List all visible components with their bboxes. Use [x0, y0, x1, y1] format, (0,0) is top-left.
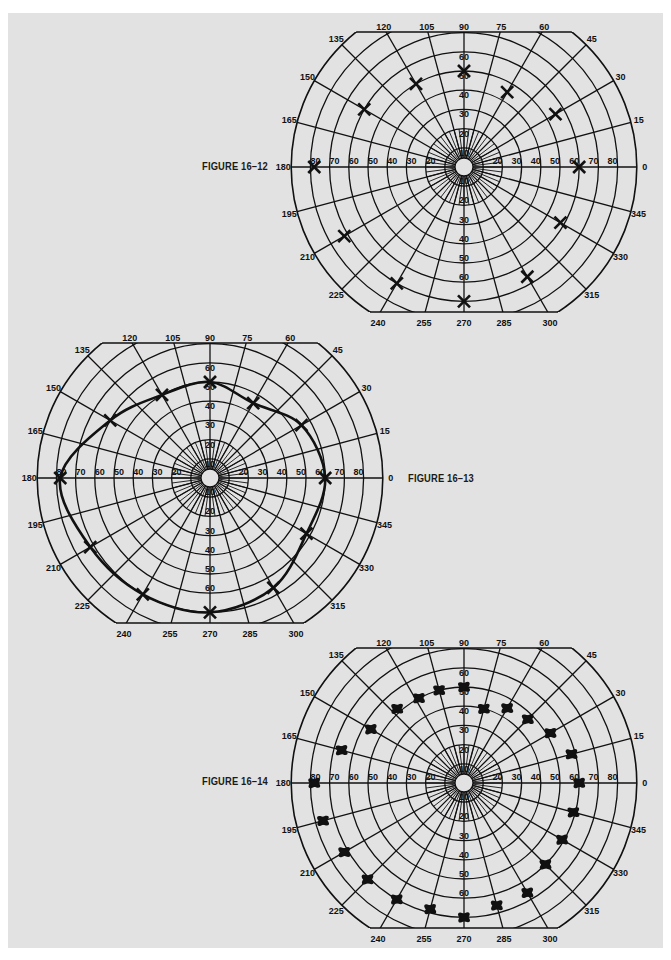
- angle-tick-label: 120: [376, 22, 391, 32]
- angle-tick-label: 105: [165, 333, 180, 343]
- angle-tick-label: 90: [205, 333, 215, 343]
- angle-tick-label: 240: [370, 934, 385, 944]
- angle-tick-label: 255: [417, 318, 432, 328]
- svg-text:40: 40: [133, 467, 143, 477]
- data-marker: [337, 845, 352, 859]
- data-marker: [501, 86, 513, 98]
- svg-text:60: 60: [459, 272, 469, 282]
- svg-text:60: 60: [349, 772, 359, 782]
- svg-text:50: 50: [550, 156, 560, 166]
- angle-tick-label: 315: [584, 290, 599, 300]
- angle-tick-label: 225: [329, 290, 344, 300]
- angle-tick-label: 285: [496, 934, 511, 944]
- svg-text:40: 40: [459, 850, 469, 860]
- angle-tick-label: 300: [543, 318, 558, 328]
- svg-text:20: 20: [426, 772, 436, 782]
- angle-tick-label: 285: [242, 629, 257, 639]
- angle-tick-label: 345: [377, 520, 392, 530]
- angle-tick-label: 15: [634, 731, 644, 741]
- data-marker: [410, 78, 422, 90]
- svg-text:40: 40: [459, 234, 469, 244]
- svg-text:80: 80: [608, 772, 618, 782]
- angle-tick-label: 90: [459, 22, 469, 32]
- angle-tick-label: 60: [539, 22, 549, 32]
- svg-text:50: 50: [459, 253, 469, 263]
- svg-text:10: 10: [205, 487, 215, 497]
- svg-text:60: 60: [459, 668, 469, 678]
- angle-tick-label: 210: [300, 868, 315, 878]
- angle-tick-label: 255: [417, 934, 432, 944]
- angle-tick-label: 60: [285, 333, 295, 343]
- data-marker: [520, 886, 535, 900]
- svg-text:40: 40: [277, 467, 287, 477]
- polar-grid: [37, 305, 383, 651]
- svg-text:20: 20: [205, 506, 215, 516]
- svg-text:10: 10: [459, 148, 469, 158]
- angle-tick-label: 165: [282, 115, 297, 125]
- angle-tick-label: 300: [543, 934, 558, 944]
- angle-tick-label: 255: [163, 629, 178, 639]
- data-marker: [315, 814, 330, 828]
- angle-tick-label: 30: [616, 72, 626, 82]
- svg-text:10: 10: [459, 792, 469, 802]
- angle-tick-label: 195: [282, 209, 297, 219]
- data-marker: [247, 397, 259, 409]
- svg-text:30: 30: [459, 215, 469, 225]
- angle-tick-label: 15: [634, 115, 644, 125]
- svg-text:40: 40: [205, 545, 215, 555]
- svg-text:30: 30: [406, 156, 416, 166]
- svg-text:30: 30: [205, 420, 215, 430]
- svg-text:30: 30: [459, 725, 469, 735]
- angle-tick-label: 120: [376, 638, 391, 648]
- svg-text:40: 40: [531, 772, 541, 782]
- angle-tick-label: 75: [496, 638, 506, 648]
- angle-tick-label: 315: [584, 906, 599, 916]
- data-marker: [489, 898, 504, 912]
- angle-tick-label: 150: [300, 72, 315, 82]
- angle-tick-label: 270: [456, 934, 471, 944]
- data-marker: [334, 743, 349, 757]
- svg-text:70: 70: [334, 467, 344, 477]
- angle-tick-label: 90: [459, 638, 469, 648]
- angle-tick-label: 225: [75, 601, 90, 611]
- angle-tick-label: 345: [631, 825, 646, 835]
- angle-tick-label: 330: [613, 868, 628, 878]
- svg-text:50: 50: [459, 869, 469, 879]
- angle-tick-label: 180: [276, 778, 291, 788]
- polar-charts: 0153045607590105120135150165180195210225…: [0, 0, 671, 960]
- angle-tick-label: 75: [496, 22, 506, 32]
- svg-text:40: 40: [459, 706, 469, 716]
- data-marker: [389, 892, 404, 906]
- angle-tick-label: 165: [28, 426, 43, 436]
- svg-text:10: 10: [459, 764, 469, 774]
- data-marker: [543, 726, 558, 740]
- data-marker: [295, 419, 307, 431]
- svg-text:50: 50: [368, 772, 378, 782]
- svg-text:70: 70: [76, 467, 86, 477]
- polar-chart-16-14: 0153045607590105120135150165180195210225…: [276, 610, 648, 956]
- data-marker: [432, 683, 447, 697]
- angle-tick-label: 135: [75, 345, 90, 355]
- angle-tick-label: 120: [122, 333, 137, 343]
- data-marker: [476, 702, 491, 716]
- svg-text:50: 50: [368, 156, 378, 166]
- polar-grid: [291, 610, 637, 956]
- angle-tick-label: 330: [613, 252, 628, 262]
- angle-tick-label: 60: [539, 638, 549, 648]
- svg-text:80: 80: [608, 156, 618, 166]
- angle-tick-label: 0: [642, 162, 647, 172]
- svg-text:20: 20: [459, 195, 469, 205]
- svg-text:60: 60: [459, 52, 469, 62]
- svg-text:50: 50: [205, 564, 215, 574]
- svg-text:30: 30: [205, 526, 215, 536]
- data-marker: [137, 588, 149, 600]
- angle-tick-label: 0: [642, 778, 647, 788]
- angle-tick-label: 300: [289, 629, 304, 639]
- svg-text:30: 30: [406, 772, 416, 782]
- angle-tick-label: 270: [202, 629, 217, 639]
- data-marker: [391, 277, 403, 289]
- svg-text:50: 50: [550, 772, 560, 782]
- svg-text:10: 10: [205, 459, 215, 469]
- svg-text:30: 30: [512, 156, 522, 166]
- svg-text:60: 60: [205, 363, 215, 373]
